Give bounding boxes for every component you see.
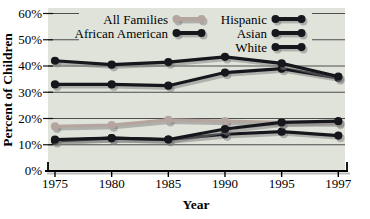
- data-point-african-american-1975: [51, 57, 59, 65]
- data-point-asian-1990: [221, 125, 229, 133]
- y-tick-label-0: 0%: [25, 163, 43, 178]
- data-point-asian-1995: [278, 118, 286, 126]
- data-point-all-families-1990: [221, 117, 229, 125]
- x-tick-label-1995: 1995: [269, 176, 295, 191]
- data-point-african-american-1997: [334, 72, 342, 80]
- legend-label-white: White: [235, 40, 267, 55]
- data-point-african-american-1985: [164, 58, 172, 66]
- data-point-african-american-1990: [221, 53, 229, 61]
- data-point-african-american-1980: [108, 61, 116, 69]
- data-point-hispanic-1990: [221, 68, 229, 76]
- y-tick-label-40: 40%: [18, 58, 42, 73]
- chart-figure: 1975198019851990199519970%10%20%30%40%50…: [0, 0, 370, 219]
- data-point-asian-1985: [164, 135, 172, 143]
- data-point-hispanic-1975: [51, 80, 59, 88]
- data-point-all-families-1975: [51, 122, 59, 130]
- data-point-white-1997: [334, 131, 342, 139]
- y-tick-label-60: 60%: [18, 6, 42, 21]
- data-point-asian-1997: [334, 117, 342, 125]
- x-tick-label-1990: 1990: [212, 176, 238, 191]
- data-point-asian-1980: [108, 134, 116, 142]
- x-tick-label-1985: 1985: [155, 176, 181, 191]
- x-tick-label-1980: 1980: [99, 176, 125, 191]
- data-point-all-families-1980: [108, 121, 116, 129]
- x-tick-label-1997: 1997: [325, 176, 352, 191]
- y-axis-title: Percent of Children: [0, 33, 15, 147]
- line-chart: 1975198019851990199519970%10%20%30%40%50…: [0, 0, 370, 219]
- y-tick-label-10: 10%: [18, 137, 42, 152]
- data-point-african-american-1995: [278, 59, 286, 67]
- legend-label-hispanic: Hispanic: [221, 12, 267, 27]
- y-tick-label-20: 20%: [18, 111, 42, 126]
- x-tick-label-1975: 1975: [42, 176, 68, 191]
- x-axis-title: Year: [183, 197, 210, 212]
- y-tick-label-50: 50%: [18, 32, 42, 47]
- y-tick-label-30: 30%: [18, 85, 42, 100]
- legend-label-asian: Asian: [237, 26, 268, 41]
- chart-content: 1975198019851990199519970%10%20%30%40%50…: [18, 6, 352, 191]
- legend-label-african-american: African American: [75, 26, 169, 41]
- data-point-asian-1975: [51, 135, 59, 143]
- legend-label-all-families: All Families: [103, 12, 168, 27]
- data-point-all-families-1985: [164, 116, 172, 124]
- data-point-hispanic-1980: [108, 80, 116, 88]
- data-point-hispanic-1985: [164, 82, 172, 90]
